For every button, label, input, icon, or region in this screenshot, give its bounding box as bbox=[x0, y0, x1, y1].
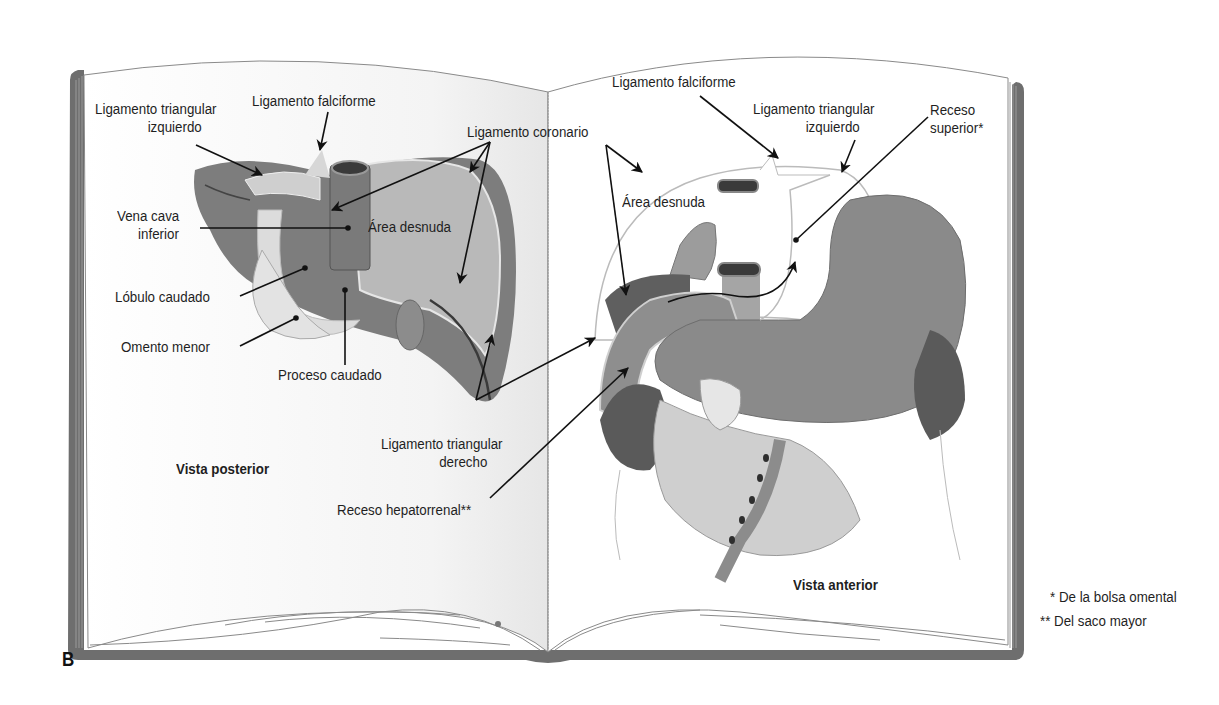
label-line-2: izquierdo bbox=[753, 118, 875, 136]
footnote-1: * De la bolsa omental bbox=[1050, 588, 1177, 606]
label-line-1: Ligamento triangular bbox=[753, 100, 875, 118]
label-line-1: Ligamento triangular bbox=[95, 100, 217, 118]
label-ligamento-triangular-izquierdo-right: Ligamento triangular izquierdo bbox=[753, 100, 875, 136]
label-line-2: superior* bbox=[930, 119, 983, 137]
view-title-anterior: Vista anterior bbox=[793, 576, 878, 594]
label-ligamento-coronario: Ligamento coronario bbox=[467, 123, 589, 141]
label-lobulo-caudado: Lóbulo caudado bbox=[115, 288, 210, 306]
label-area-desnuda-right: Área desnuda bbox=[622, 193, 705, 211]
footnote-2: ** Del saco mayor bbox=[1040, 612, 1147, 630]
view-title-posterior: Vista posterior bbox=[176, 460, 269, 478]
label-proceso-caudado: Proceso caudado bbox=[278, 366, 382, 384]
label-line-2: izquierdo bbox=[95, 118, 217, 136]
label-omento-menor: Omento menor bbox=[121, 338, 210, 356]
label-line-1: Vena cava bbox=[117, 207, 179, 225]
label-ligamento-falciforme-right: Ligamento falciforme bbox=[612, 73, 736, 91]
label-line-2: derecho bbox=[381, 453, 503, 471]
label-line-1: Ligamento triangular bbox=[381, 435, 503, 453]
anatomy-figure: Ligamento triangular izquierdo Ligamento… bbox=[0, 0, 1219, 705]
label-vena-cava-inferior: Vena cava inferior bbox=[117, 207, 179, 243]
label-line-2: inferior bbox=[117, 225, 179, 243]
label-area-desnuda-left: Área desnuda bbox=[368, 218, 451, 236]
label-line-1: Receso bbox=[930, 101, 983, 119]
label-receso-superior: Receso superior* bbox=[930, 101, 983, 137]
panel-letter: B bbox=[62, 648, 74, 671]
label-ligamento-triangular-derecho: Ligamento triangular derecho bbox=[381, 435, 503, 471]
label-receso-hepatorrenal: Receso hepatorrenal** bbox=[337, 501, 471, 519]
label-ligamento-falciforme-left: Ligamento falciforme bbox=[252, 92, 376, 110]
label-ligamento-triangular-izquierdo-left: Ligamento triangular izquierdo bbox=[95, 100, 217, 136]
